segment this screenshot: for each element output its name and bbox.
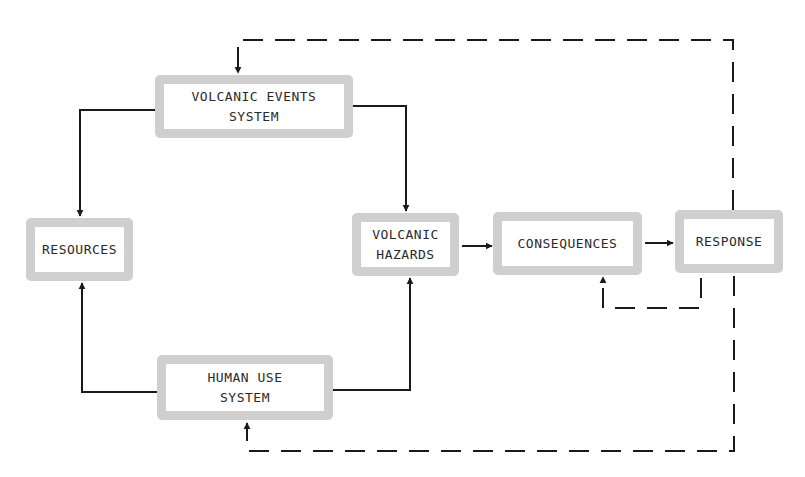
edge-human-use-to-hazards <box>332 278 410 390</box>
edge-human-use-to-resources <box>82 283 158 392</box>
node-human-use-system: HUMAN USE SYSTEM <box>157 355 333 420</box>
edge-volcanic-events-to-hazards <box>353 106 406 211</box>
node-label-line1: RESPONSE <box>696 232 763 252</box>
node-volcanic-events-system: VOLCANIC EVENTS SYSTEM <box>155 75 353 138</box>
node-response: RESPONSE <box>675 210 783 273</box>
node-label-line1: RESOURCES <box>42 240 117 260</box>
node-resources: RESOURCES <box>26 218 133 281</box>
node-label-line2: SYSTEM <box>229 107 279 127</box>
node-label-line1: VOLCANIC EVENTS <box>192 87 317 107</box>
node-label-line2: SYSTEM <box>220 388 270 408</box>
node-label-line1: HUMAN USE <box>208 368 283 388</box>
node-label-line1: CONSEQUENCES <box>518 234 618 254</box>
edge-volcanic-events-to-resources <box>80 110 155 216</box>
node-label-line1: VOLCANIC <box>372 225 439 245</box>
edge-response-to-consequences <box>603 277 701 308</box>
node-volcanic-hazards: VOLCANIC HAZARDS <box>352 213 459 276</box>
node-consequences: CONSEQUENCES <box>493 212 642 275</box>
node-label-line2: HAZARDS <box>376 245 434 265</box>
